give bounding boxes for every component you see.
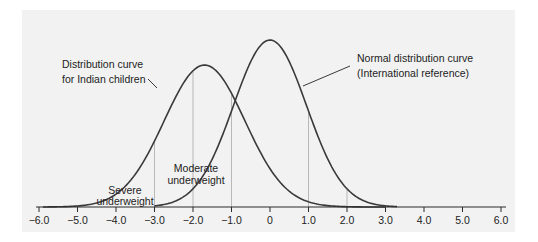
x-tick-label: −3.0	[144, 214, 165, 226]
x-tick-label: 3.0	[378, 214, 393, 226]
normal-curve-label-line2: (International reference)	[357, 67, 469, 79]
x-tick-label: −4.0	[106, 214, 127, 226]
indian-curve-label-line2: for Indian children	[62, 73, 146, 85]
x-tick-label: 0	[267, 214, 273, 226]
severe-underweight-label-line2: underweight	[96, 195, 153, 207]
x-tick-label: −6.0	[29, 214, 50, 226]
x-tick-label: −2.0	[183, 214, 204, 226]
x-tick-label: 2.0	[340, 214, 355, 226]
x-tick-label: 6.0	[494, 214, 509, 226]
x-tick-label: 1.0	[301, 214, 316, 226]
moderate-underweight-label: Moderate	[174, 162, 219, 174]
x-tick-label: −5.0	[67, 214, 88, 226]
x-tick-label: 5.0	[455, 214, 470, 226]
indian-curve-label: Distribution curve	[62, 58, 143, 70]
x-tick-label: 4.0	[417, 214, 432, 226]
distribution-chart: −6.0−5.0−4.0−3.0−2.0−1.001.02.03.04.05.0…	[0, 0, 538, 242]
normal-curve-label: Normal distribution curve	[357, 52, 473, 64]
x-tick-label: −1.0	[221, 214, 242, 226]
moderate-underweight-label-line2: underweight	[167, 174, 224, 186]
